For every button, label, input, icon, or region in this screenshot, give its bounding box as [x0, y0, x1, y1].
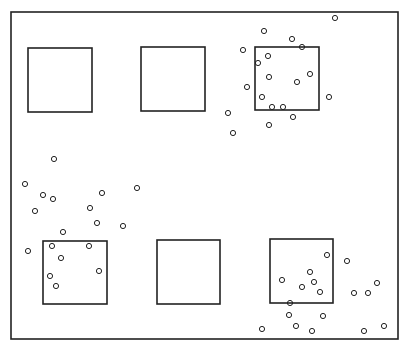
point-marker [49, 243, 54, 248]
point-marker [225, 110, 230, 115]
point-marker [311, 279, 316, 284]
point-marker [25, 248, 30, 253]
point-marker [279, 277, 284, 282]
point-marker [351, 290, 356, 295]
point-marker [289, 36, 294, 41]
point-marker [265, 53, 270, 58]
point-marker [120, 223, 125, 228]
point-marker [244, 84, 249, 89]
point-marker [307, 71, 312, 76]
point-marker [324, 252, 329, 257]
point-marker [51, 156, 56, 161]
quadrat-bottom-right [270, 239, 333, 303]
point-marker [87, 205, 92, 210]
point-marker [47, 273, 52, 278]
point-marker [94, 220, 99, 225]
point-marker [53, 283, 58, 288]
point-marker [307, 269, 312, 274]
point-marker [326, 94, 331, 99]
point-marker [240, 47, 245, 52]
point-marker [365, 290, 370, 295]
point-marker [58, 255, 63, 260]
point-marker [309, 328, 314, 333]
point-marker [290, 114, 295, 119]
point-marker [294, 79, 299, 84]
point-marker [344, 258, 349, 263]
point-marker [381, 323, 386, 328]
point-marker [259, 326, 264, 331]
point-marker [22, 181, 27, 186]
point-marker [32, 208, 37, 213]
point-marker [134, 185, 139, 190]
quadrat-top-left [28, 48, 92, 112]
quadrats-group [28, 47, 333, 304]
point-marker [261, 28, 266, 33]
point-marker [361, 328, 366, 333]
point-marker [332, 15, 337, 20]
point-marker [266, 122, 271, 127]
point-marker [259, 94, 264, 99]
point-marker [293, 323, 298, 328]
point-marker [86, 243, 91, 248]
point-marker [317, 289, 322, 294]
point-marker [60, 229, 65, 234]
point-marker [40, 192, 45, 197]
point-marker [320, 313, 325, 318]
quadrat-top-right [255, 47, 319, 110]
point-marker [230, 130, 235, 135]
quadrat-bottom-middle [157, 240, 220, 304]
point-marker [286, 312, 291, 317]
point-marker [266, 74, 271, 79]
point-marker [269, 104, 274, 109]
point-marker [255, 60, 260, 65]
quadrat-sampling-diagram [0, 0, 411, 346]
quadrat-top-middle [141, 47, 205, 111]
point-marker [99, 190, 104, 195]
point-marker [299, 284, 304, 289]
point-marker [96, 268, 101, 273]
point-marker [280, 104, 285, 109]
point-marker [374, 280, 379, 285]
point-marker [50, 196, 55, 201]
diagram-svg [0, 0, 411, 346]
